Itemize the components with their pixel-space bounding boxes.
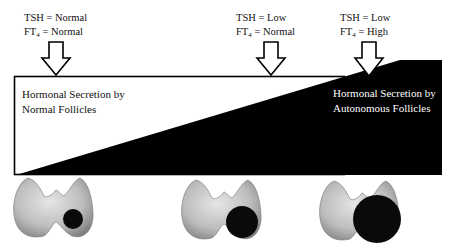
ft4-label: FT4 = Normal [236,25,295,42]
normal-label-line2: Normal Follicles [22,102,125,117]
down-arrow-icon [42,42,70,75]
thyroid-nodule-progression-diagram: TSH = Normal FT4 = Normal TSH = Low FT4 … [0,0,455,251]
autonomous-label-line2: Autonomous Follicles [333,101,436,116]
tsh-label: TSH = Normal [24,11,87,25]
nodule-small [63,209,83,229]
ft4-label: FT4 = High [340,25,390,42]
stage-1-labels: TSH = Normal FT4 = Normal [24,11,87,42]
stage-2-labels: TSH = Low FT4 = Normal [236,11,295,42]
stage-3-labels: TSH = Low FT4 = High [340,11,390,42]
nodule-medium [226,206,258,238]
tsh-label: TSH = Low [340,11,390,25]
ft4-label: FT4 = Normal [24,25,87,42]
thyroid-gland-icon [14,178,93,237]
autonomous-label-line1: Hormonal Secretion by [333,86,436,101]
normal-follicles-label: Hormonal Secretion by Normal Follicles [22,87,125,117]
tsh-label: TSH = Low [236,11,295,25]
autonomous-follicles-label: Hormonal Secretion by Autonomous Follicl… [333,86,436,116]
down-arrow-icon [257,42,285,75]
nodule-large [353,195,401,243]
normal-label-line1: Hormonal Secretion by [22,87,125,102]
thyroid-gland-icon [320,181,401,243]
thyroid-gland-icon [182,180,261,239]
